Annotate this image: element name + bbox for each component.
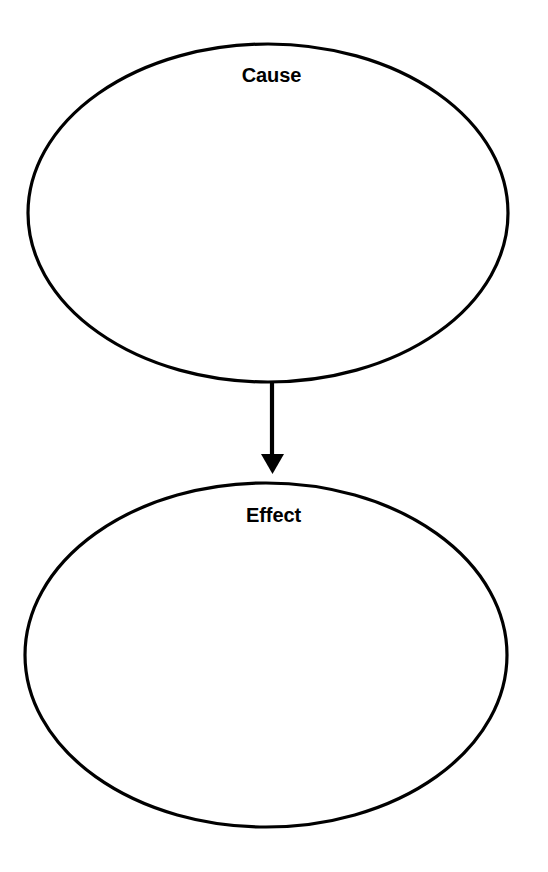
worksheet-page: Cause and Effect Cause Effect [0, 0, 548, 872]
effect-write-area[interactable] [88, 540, 452, 799]
cause-write-area[interactable] [90, 100, 454, 354]
effect-label: Effect [0, 504, 547, 527]
cause-label: Cause [0, 64, 543, 87]
arrow-head-icon [261, 454, 284, 474]
cause-to-effect-arrow[interactable] [261, 383, 284, 474]
